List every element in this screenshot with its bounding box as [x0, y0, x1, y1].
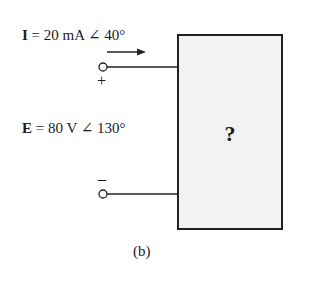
- top-terminal: [99, 63, 107, 71]
- voltage-label: E = 80 V ∠ 130°: [22, 119, 126, 137]
- voltage-value: 80 V ∠ 130°: [48, 120, 126, 136]
- unknown-element-box: ?: [177, 34, 283, 230]
- current-label: I = 20 mA ∠ 40°: [22, 26, 125, 44]
- unknown-element-label: ?: [179, 121, 281, 147]
- current-equals: =: [32, 27, 40, 43]
- plus-sign: +: [97, 72, 106, 90]
- voltage-equals: =: [36, 120, 44, 136]
- figure-caption: (b): [133, 243, 151, 260]
- current-value: 20 mA ∠ 40°: [44, 27, 126, 43]
- current-symbol: I: [22, 27, 28, 43]
- arrowhead-icon: [137, 49, 146, 56]
- bottom-terminal: [99, 190, 107, 198]
- voltage-symbol: E: [22, 120, 32, 136]
- minus-sign: –: [98, 170, 106, 188]
